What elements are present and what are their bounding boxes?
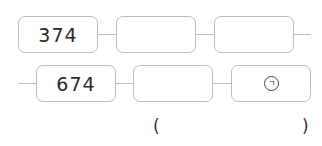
- answer-blank[interactable]: [165, 118, 295, 138]
- sequence-box-2[interactable]: [116, 16, 196, 53]
- connector-line: [196, 34, 214, 35]
- sequence-box-6[interactable]: ㄱ: [231, 65, 311, 102]
- sequence-box-5[interactable]: [133, 65, 213, 102]
- connector-line: [98, 34, 116, 35]
- connector-line: [18, 83, 36, 84]
- sequence-box-3[interactable]: [214, 16, 294, 53]
- connector-line: [116, 83, 133, 84]
- connector-line: [294, 34, 311, 35]
- answer-close-paren: ): [302, 116, 309, 136]
- box-value: 374: [38, 24, 77, 46]
- connector-line: [213, 83, 231, 84]
- sequence-box-4[interactable]: 674: [36, 65, 116, 102]
- sequence-box-1[interactable]: 374: [18, 16, 98, 53]
- box-value: 674: [56, 73, 95, 95]
- answer-open-paren: (: [153, 116, 160, 136]
- circled-giyeok-marker-icon: ㄱ: [264, 76, 279, 91]
